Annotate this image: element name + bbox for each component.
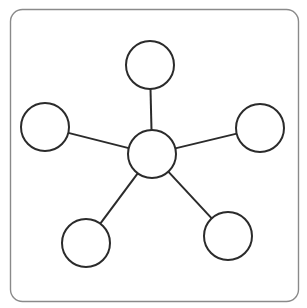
edge-center-to-bottom-left [100,173,137,223]
node-bottom-right [204,212,252,260]
node-bottom-left [62,219,110,267]
diagram-canvas [0,0,307,308]
node-center [128,130,176,178]
edge-center-to-bottom-right [168,172,211,219]
edge-center-to-right [175,134,236,149]
edge-center-to-top [151,89,152,130]
hub-spoke-diagram [0,0,307,308]
node-left [21,103,69,151]
node-top [126,41,174,89]
edge-center-to-left [68,133,128,148]
nodes [21,41,284,267]
node-right [236,104,284,152]
